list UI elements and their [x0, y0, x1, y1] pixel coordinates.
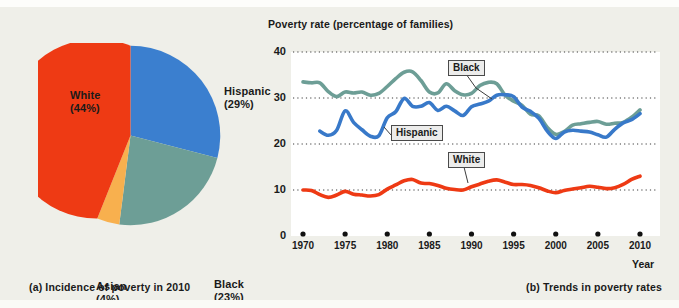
panel-a-caption: (a) Incidence of poverty in 2010 [29, 281, 190, 293]
series-line-hispanic [320, 95, 640, 139]
x-tick-1970: 1970 [283, 240, 323, 251]
pie-label-asian-pct: (4%) [96, 293, 126, 306]
panel-b-caption: (b) Trends in poverty rates [526, 281, 662, 293]
panel-trends-in-poverty-rates: Poverty rate (percentage of families) 40… [260, 0, 679, 308]
pie-label-black-name: Black [214, 278, 244, 291]
pie-label-white: White (44%) [70, 89, 100, 115]
x-tick-1990: 1990 [452, 240, 492, 251]
series-label-white: White [448, 152, 485, 168]
x-tick-1980: 1980 [367, 240, 407, 251]
x-axis-title: Year [632, 258, 654, 270]
x-tick-2000: 2000 [536, 240, 576, 251]
pie-label-black-pct: (23%) [214, 291, 244, 304]
y-tick-10: 10 [260, 183, 286, 195]
pie-label-white-pct: (44%) [70, 102, 100, 115]
pie-chart: White (44%) Hispanic (29%) Black (23%) A… [38, 43, 223, 228]
x-tick-2010: 2010 [620, 240, 660, 251]
x-tick-1975: 1975 [325, 240, 365, 251]
series-label-hispanic: Hispanic [391, 125, 443, 141]
x-tick-1985: 1985 [409, 240, 449, 251]
y-tick-40: 40 [260, 45, 286, 57]
figure-container: White (44%) Hispanic (29%) Black (23%) A… [0, 0, 679, 308]
panel-incidence-of-poverty: White (44%) Hispanic (29%) Black (23%) A… [0, 0, 268, 308]
y-tick-20: 20 [260, 137, 286, 149]
x-axis-dots [300, 231, 642, 236]
y-tick-30: 30 [260, 91, 286, 103]
x-tick-2005: 2005 [578, 240, 618, 251]
series-label-black: Black [448, 60, 485, 76]
pie-chart-svg [38, 43, 223, 228]
pie-label-black: Black (23%) [214, 278, 244, 304]
series-lines [303, 71, 640, 197]
pie-label-white-name: White [70, 89, 100, 102]
x-tick-1995: 1995 [494, 240, 534, 251]
series-line-white [303, 176, 640, 197]
